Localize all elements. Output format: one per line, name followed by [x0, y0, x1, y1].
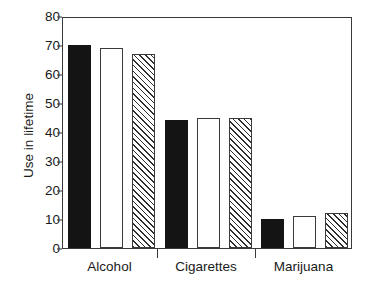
y-tick-label-0: 0 [20, 242, 60, 256]
y-tick-label-50: 50 [20, 97, 60, 111]
bars-layer [63, 18, 351, 248]
y-tick-label-20: 20 [20, 184, 60, 198]
y-tick-label-30: 30 [20, 155, 60, 169]
bar-marijuana-series-2-open [293, 216, 316, 248]
x-label-cigarettes: Cigarettes [157, 259, 255, 274]
bar-marijuana-series-3-hatch [325, 213, 348, 248]
bar-cigarettes-series-3-hatch [229, 118, 252, 249]
x-axis-separator-1 [157, 249, 158, 258]
bar-alcohol-series-3-hatch [132, 54, 155, 248]
y-tick-label-40: 40 [20, 126, 60, 140]
bar-cigarettes-series-1-solid [165, 120, 188, 248]
bar-alcohol-series-2-open [100, 48, 123, 248]
y-tick-label-10: 10 [20, 213, 60, 227]
bar-marijuana-series-1-solid [261, 219, 284, 248]
bar-chart: Use in lifetime 0 10 20 30 40 50 60 70 8… [0, 0, 389, 284]
x-label-alcohol: Alcohol [62, 259, 157, 274]
plot-area [62, 17, 352, 249]
x-axis-separator-2 [255, 249, 256, 258]
bar-cigarettes-series-2-open [197, 118, 220, 249]
x-label-marijuana: Marijuana [255, 259, 352, 274]
y-tick-label-80: 80 [20, 10, 60, 24]
y-tick-label-60: 60 [20, 68, 60, 82]
bar-alcohol-series-1-solid [68, 45, 91, 248]
y-tick-label-70: 70 [20, 39, 60, 53]
